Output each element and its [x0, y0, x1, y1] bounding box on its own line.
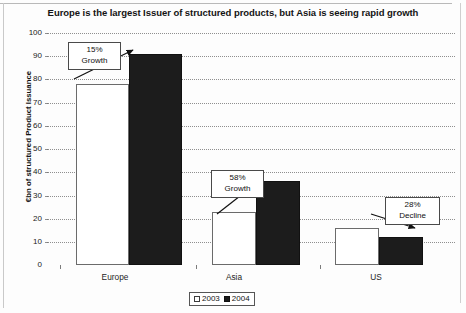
annotation-europe: 15% Growth	[68, 42, 121, 70]
annotation-europe-label: Growth	[72, 56, 117, 67]
annotation-us-label: Decline	[389, 211, 436, 222]
annotation-europe-value: 15%	[86, 45, 102, 54]
annotation-us-value: 28%	[404, 200, 420, 209]
annotation-asia: 58% Growth	[211, 170, 264, 198]
annotation-asia-label: Growth	[215, 184, 260, 195]
annotation-us: 28% Decline	[385, 197, 440, 225]
annotation-asia-value: 58%	[229, 173, 245, 182]
